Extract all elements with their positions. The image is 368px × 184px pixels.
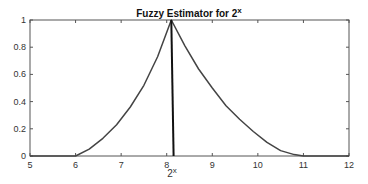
plot-axes [30,20,349,156]
axes-frame [30,20,349,156]
membership-line [30,20,349,156]
y-tick-label: 0.2 [13,124,26,134]
y-tick-label: 0 [21,151,26,161]
x-tick-label: 5 [27,160,32,170]
plot-series [30,20,349,156]
fuzzy-estimator-chart: 00.20.40.60.81 56789101112 Fuzzy Estimat… [0,0,368,184]
y-tick-label: 1 [21,15,26,25]
x-axis-ticks: 56789101112 [27,20,354,170]
x-tick-label: 6 [73,160,78,170]
x-tick-label: 11 [299,160,308,170]
y-axis-ticks: 00.20.40.60.81 [13,15,349,161]
x-tick-label: 7 [119,160,124,170]
crisp-value-line [171,20,173,156]
x-tick-label: 10 [253,160,263,170]
x-tick-label: 12 [344,160,354,170]
chart-title: Fuzzy Estimator for 2x [136,6,242,19]
y-tick-label: 0.8 [13,42,26,52]
x-tick-label: 9 [210,160,215,170]
y-tick-label: 0.4 [13,97,26,107]
y-tick-label: 0.6 [13,69,26,79]
x-axis-label: 2x [167,166,177,179]
